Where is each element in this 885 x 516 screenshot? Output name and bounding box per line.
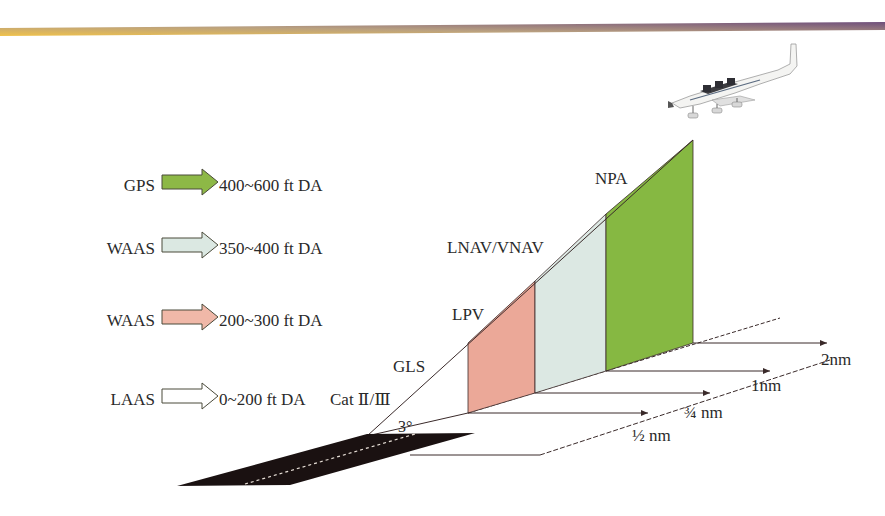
approach-diagram: GPS 400~600 ft DA WAAS 350~400 ft DA WAA… xyxy=(0,0,885,516)
arrow-icon xyxy=(162,232,218,258)
legend-system-label: WAAS xyxy=(107,311,155,330)
distance-1nm-label: 1nm xyxy=(751,376,781,395)
distance-2nm-label: 2nm xyxy=(821,350,851,369)
legend-range-label: 400~600 ft DA xyxy=(219,176,323,195)
arrow-icon xyxy=(162,304,218,330)
legend-row-gps: GPS 400~600 ft DA xyxy=(124,169,324,195)
distance-half-nm-label: ½ nm xyxy=(632,426,671,445)
distance-three-quarter-nm-label: ¾ nm xyxy=(684,403,723,422)
npa-label: NPA xyxy=(595,169,628,188)
lpv-panel xyxy=(468,281,535,413)
legend-range-label: 350~400 ft DA xyxy=(219,239,323,258)
lnav-vnav-panel xyxy=(535,214,606,393)
legend-system-label: LAAS xyxy=(111,390,155,409)
legend-row-waas-lpv: WAAS 200~300 ft DA xyxy=(107,304,324,330)
lnav-vnav-label: LNAV/VNAV xyxy=(447,238,544,257)
legend-row-laas: LAAS 0~200 ft DA Cat Ⅱ/Ⅲ xyxy=(111,383,391,409)
legend-category-label: Cat Ⅱ/Ⅲ xyxy=(330,390,391,409)
legend-row-waas-lnav: WAAS 350~400 ft DA xyxy=(107,232,324,258)
glide-angle-label: 3° xyxy=(398,418,412,435)
legend-system-label: GPS xyxy=(124,176,155,195)
legend-system-label: WAAS xyxy=(107,239,155,258)
runway xyxy=(177,433,475,486)
gls-label: GLS xyxy=(393,357,425,376)
legend-range-label: 0~200 ft DA xyxy=(219,390,306,409)
arrow-icon xyxy=(162,169,218,195)
airplane-icon xyxy=(668,44,797,118)
arrow-icon xyxy=(162,383,218,409)
lpv-label: LPV xyxy=(452,305,485,324)
legend-range-label: 200~300 ft DA xyxy=(219,311,323,330)
